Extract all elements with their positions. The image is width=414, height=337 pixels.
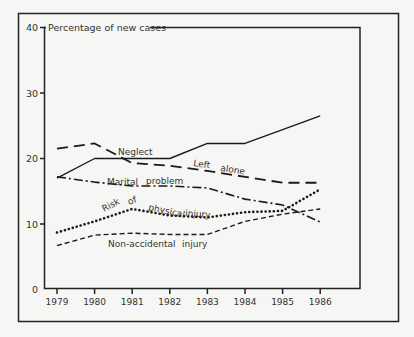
- x-tick-label: 1980: [83, 297, 106, 307]
- series-label: physical: [148, 202, 186, 219]
- x-tick-label: 1983: [196, 297, 219, 307]
- y-tick-label: 20: [26, 153, 38, 164]
- line-chart-svg: Percentage of new cases 010203040 197919…: [0, 0, 414, 337]
- series-label: Risk: [100, 196, 122, 214]
- series-label: injury: [182, 239, 208, 249]
- x-tick-label: 1984: [234, 297, 257, 307]
- x-tick-label: 1985: [271, 297, 294, 307]
- y-axis: 010203040: [26, 22, 45, 295]
- x-axis: 19791980198119821983198419851986: [46, 289, 332, 307]
- y-tick-label: 0: [32, 284, 38, 295]
- series-lines: [57, 116, 320, 246]
- x-tick-label: 1986: [309, 297, 332, 307]
- series-label: problem: [146, 176, 183, 186]
- chart-title: Percentage of new cases: [48, 22, 166, 33]
- series-label: Non-accidental: [108, 239, 176, 249]
- series-label: Marital: [107, 177, 138, 187]
- x-tick-label: 1981: [121, 297, 144, 307]
- y-tick-label: 30: [26, 88, 38, 99]
- series-label: alone: [220, 163, 246, 176]
- series-label: Neglect: [118, 147, 153, 157]
- series-label: injury: [185, 208, 212, 220]
- chart: Percentage of new cases 010203040 197919…: [0, 0, 414, 337]
- x-tick-label: 1979: [46, 297, 69, 307]
- y-tick-label: 40: [26, 22, 38, 33]
- y-tick-label: 10: [26, 219, 38, 230]
- series-label: of: [126, 194, 138, 207]
- plot-frame: [45, 28, 361, 289]
- series-line-left-alone: [57, 143, 320, 182]
- x-tick-label: 1982: [158, 297, 181, 307]
